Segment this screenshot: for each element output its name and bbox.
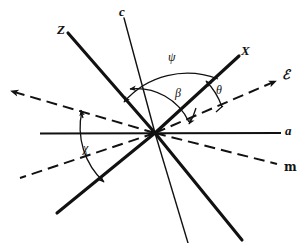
line-m-axis-extension xyxy=(20,133,155,178)
line-e-axis-left xyxy=(11,91,155,133)
angle-label-theta: θ xyxy=(216,84,222,96)
crystal-axes-figure: c Z X ℰ a m ψ β θ χ xyxy=(0,0,305,243)
axis-label-x: X xyxy=(241,44,250,57)
diagram-canvas xyxy=(0,0,305,243)
arc-theta-tail xyxy=(216,106,223,112)
line-x-axis xyxy=(155,56,239,133)
line-x-axis-extension xyxy=(57,133,155,213)
axis-label-z: Z xyxy=(57,23,65,36)
line-z-axis-extension xyxy=(155,133,242,240)
axis-label-a: a xyxy=(285,124,292,137)
axis-label-script-e: ℰ xyxy=(282,68,290,81)
angle-label-psi: ψ xyxy=(168,51,175,63)
axis-label-c: c xyxy=(119,5,125,18)
line-m-axis xyxy=(155,133,277,164)
angle-label-chi: χ xyxy=(83,142,88,154)
axis-label-m: m xyxy=(284,161,297,173)
line-c-axis-extension xyxy=(155,133,188,243)
angle-label-beta: β xyxy=(175,87,181,99)
